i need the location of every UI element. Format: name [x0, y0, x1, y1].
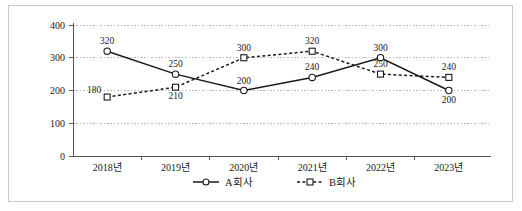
series-b-point-labels: 180210300320250240 [87, 36, 456, 101]
y-tick-label: 300 [50, 52, 65, 63]
y-tick-label: 200 [50, 85, 65, 96]
chart-legend: A회사 B회사 [193, 177, 356, 188]
grid-lines [73, 25, 491, 123]
x-axis-tick-labels: 2018년2019년2020년2021년2022년2023년 [93, 162, 464, 173]
y-tick-label: 400 [50, 20, 65, 31]
series-b-value-label: 300 [237, 43, 252, 53]
series-a-value-label: 300 [373, 43, 388, 53]
legend-b-square-icon [307, 179, 313, 185]
x-axis-ticks [141, 156, 414, 160]
x-tick-label: 2018년 [93, 162, 122, 173]
series-a-value-label: 200 [442, 95, 457, 105]
series-a-point-labels: 320250200240300200 [100, 36, 456, 104]
legend-b-label: B회사 [329, 177, 356, 188]
series-b-marker [104, 94, 110, 100]
y-axis-ticks [69, 25, 73, 156]
y-axis-tick-labels: 0100200300400 [50, 20, 65, 162]
legend-a-circle-icon [203, 179, 209, 185]
series-a-marker [309, 74, 315, 80]
legend-item-a: A회사 [193, 177, 253, 188]
y-tick-label: 100 [50, 118, 65, 129]
line-chart: 0100200300400 2018년2019년2020년2021년2022년2… [9, 6, 512, 201]
series-b-marker [241, 55, 247, 61]
x-tick-label: 2023년 [434, 162, 463, 173]
x-tick-label: 2019년 [161, 162, 190, 173]
series-b-value-label: 320 [305, 36, 320, 46]
series-a-marker [172, 71, 178, 77]
series-b-value-label: 250 [373, 59, 388, 69]
series-a-markers [104, 48, 452, 94]
series-b-marker [446, 74, 452, 80]
series-a-value-label: 200 [237, 76, 252, 86]
series-b-marker [378, 71, 384, 77]
legend-item-b: B회사 [297, 177, 356, 188]
y-tick-label: 0 [60, 151, 65, 162]
series-a-marker [241, 87, 247, 93]
series-a-marker [446, 87, 452, 93]
series-b-marker [173, 84, 179, 90]
x-tick-label: 2021년 [298, 162, 327, 173]
series-a-value-label: 250 [168, 59, 183, 69]
series-b-value-label: 180 [87, 85, 102, 95]
x-tick-label: 2022년 [366, 162, 395, 173]
legend-a-label: A회사 [225, 177, 253, 188]
series-b-marker [309, 48, 315, 54]
series-a-value-label: 240 [305, 62, 320, 72]
series-b-value-label: 210 [168, 91, 183, 101]
series-a-marker [104, 48, 110, 54]
series-b-markers [104, 48, 452, 100]
series-b-value-label: 240 [442, 62, 457, 72]
series-a-line [107, 51, 449, 90]
x-tick-label: 2020년 [229, 162, 258, 173]
series-a-value-label: 320 [100, 36, 115, 46]
chart-frame: 0100200300400 2018년2019년2020년2021년2022년2… [8, 5, 513, 202]
